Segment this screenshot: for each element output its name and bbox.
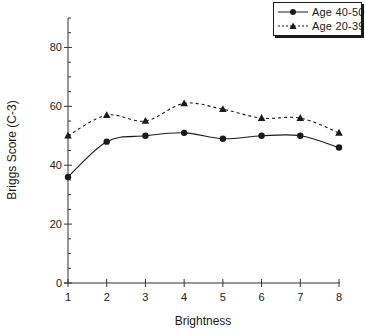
circle-marker-icon [104, 138, 110, 144]
y-tick-label: 0 [56, 277, 62, 289]
legend-item-age-40-50: Age 40-50 [278, 5, 365, 19]
legend: Age 40-50 Age 20-39 [273, 2, 362, 36]
circle-marker-icon [258, 133, 264, 139]
legend-label: Age 40-50 [312, 6, 365, 18]
x-tick-label: 8 [336, 291, 342, 303]
dashed-line-triangle-marker-icon [278, 21, 308, 31]
x-tick-label: 7 [297, 291, 303, 303]
circle-marker-icon [220, 136, 226, 142]
circle-marker-icon [297, 133, 303, 139]
legend-label: Age 20-39 [312, 20, 365, 32]
x-tick-label: 2 [104, 291, 110, 303]
y-tick-label: 60 [50, 100, 62, 112]
triangle-marker-icon [64, 132, 72, 139]
x-tick-label: 3 [142, 291, 148, 303]
triangle-marker-icon [103, 111, 111, 118]
series-group [64, 99, 343, 180]
x-tick-label: 6 [259, 291, 265, 303]
x-tick-label: 1 [65, 291, 71, 303]
triangle-marker-icon [258, 114, 266, 121]
y-tick-label: 20 [50, 218, 62, 230]
circle-marker-icon [142, 133, 148, 139]
circle-marker-icon [336, 144, 342, 150]
line-chart: 02040608012345678 Brightness Briggs Scor… [0, 0, 365, 336]
circle-marker-icon [65, 174, 71, 180]
axes: 02040608012345678 [50, 18, 342, 303]
legend-item-age-20-39: Age 20-39 [278, 19, 365, 33]
solid-line-circle-marker-icon [278, 7, 308, 17]
y-axis-title: Briggs Score (C-3) [5, 100, 19, 199]
x-axis-title: Brightness [175, 314, 232, 328]
triangle-marker-icon [180, 99, 188, 106]
series-age-40-50 [65, 130, 342, 181]
y-tick-label: 40 [50, 159, 62, 171]
circle-marker-icon [181, 130, 187, 136]
x-tick-label: 5 [220, 291, 226, 303]
x-tick-label: 4 [181, 291, 187, 303]
y-tick-label: 80 [50, 41, 62, 53]
